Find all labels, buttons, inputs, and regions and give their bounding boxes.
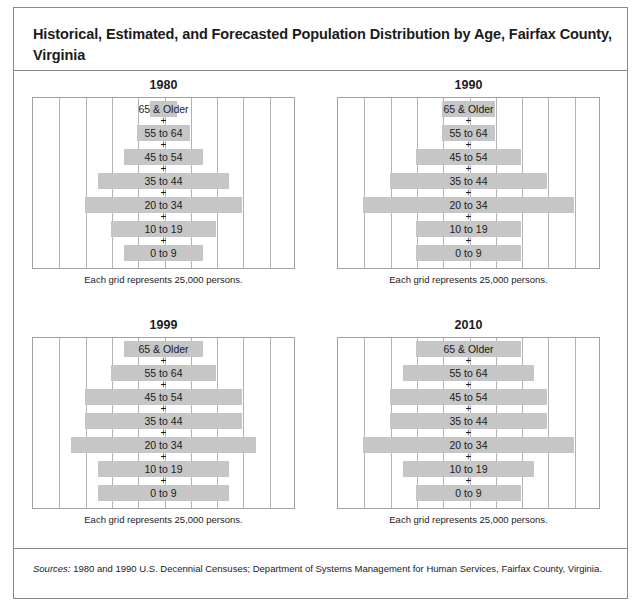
age-group-label: 0 to 9	[32, 245, 295, 261]
row-separator-plus: +	[32, 141, 295, 149]
panel-bars: 65 & Older+55 to 64+45 to 54+35 to 44+20…	[337, 97, 600, 269]
row-separator-plus: +	[337, 165, 600, 173]
panel-caption: Each grid represents 25,000 persons.	[337, 514, 600, 525]
row-separator-plus: +	[337, 381, 600, 389]
bar-row: 0 to 9	[337, 245, 600, 261]
row-separator-plus: +	[32, 381, 295, 389]
row-separator-plus: +	[32, 213, 295, 221]
panel-year-label: 2010	[337, 318, 600, 332]
chart-panel-1990: 1990 65 & Older+55 to 64+45 to 54+35 to …	[337, 78, 600, 293]
chart-panel-1999: 1999 65 & Older+55 to 64+45 to 54+35 to …	[32, 318, 295, 533]
panel-bars: 65 & Older+55 to 64+45 to 54+35 to 44+20…	[32, 337, 295, 509]
row-separator-plus: +	[32, 237, 295, 245]
panel-caption: Each grid represents 25,000 persons.	[32, 274, 295, 285]
row-separator-plus: +	[32, 117, 295, 125]
page-title: Historical, Estimated, and Forecasted Po…	[33, 24, 613, 65]
row-separator-plus: +	[337, 357, 600, 365]
row-separator-plus: +	[32, 453, 295, 461]
row-separator-plus: +	[337, 453, 600, 461]
row-separator-plus: +	[32, 165, 295, 173]
row-separator-plus: +	[337, 477, 600, 485]
title-divider	[14, 70, 627, 71]
panel-year-label: 1999	[32, 318, 295, 332]
row-separator-plus: +	[337, 189, 600, 197]
chart-panel-1980: 1980 65 & Older+55 to 64+45 to 54+35 to …	[32, 78, 295, 293]
row-separator-plus: +	[32, 477, 295, 485]
row-separator-plus: +	[32, 357, 295, 365]
bar-row: 0 to 9	[32, 245, 295, 261]
panel-year-label: 1980	[32, 78, 295, 92]
row-separator-plus: +	[337, 405, 600, 413]
row-separator-plus: +	[337, 237, 600, 245]
row-separator-plus: +	[32, 405, 295, 413]
row-separator-plus: +	[337, 141, 600, 149]
sources-note: Sources: 1980 and 1990 U.S. Decennial Ce…	[33, 562, 611, 577]
sources-label: Sources:	[33, 563, 71, 574]
sources-divider	[14, 548, 627, 549]
row-separator-plus: +	[337, 429, 600, 437]
panel-year-label: 1990	[337, 78, 600, 92]
row-separator-plus: +	[337, 213, 600, 221]
chart-panel-2010: 2010 65 & Older+55 to 64+45 to 54+35 to …	[337, 318, 600, 533]
row-separator-plus: +	[32, 429, 295, 437]
age-group-label: 0 to 9	[337, 485, 600, 501]
row-separator-plus: +	[337, 117, 600, 125]
figure-container: Historical, Estimated, and Forecasted Po…	[13, 7, 628, 599]
age-group-label: 0 to 9	[32, 485, 295, 501]
sources-text: 1980 and 1990 U.S. Decennial Censuses; D…	[71, 563, 602, 574]
panel-caption: Each grid represents 25,000 persons.	[32, 514, 295, 525]
row-separator-plus: +	[32, 189, 295, 197]
age-group-label: 0 to 9	[337, 245, 600, 261]
panel-caption: Each grid represents 25,000 persons.	[337, 274, 600, 285]
bar-row: 0 to 9	[337, 485, 600, 501]
bar-row: 0 to 9	[32, 485, 295, 501]
panel-bars: 65 & Older+55 to 64+45 to 54+35 to 44+20…	[337, 337, 600, 509]
panel-bars: 65 & Older+55 to 64+45 to 54+35 to 44+20…	[32, 97, 295, 269]
